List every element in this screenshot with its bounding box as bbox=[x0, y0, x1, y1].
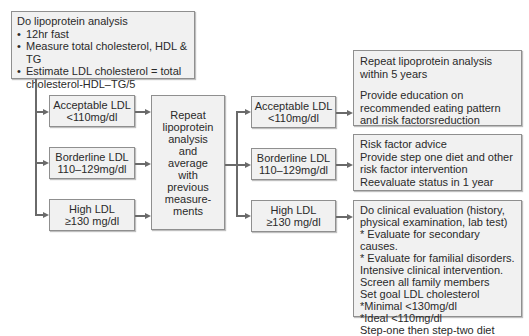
left-high-range: ≥130 mg/dl bbox=[65, 215, 119, 228]
connector-to-second-acceptable bbox=[236, 111, 245, 113]
left-borderline-ldl-box: Borderline LDL 110–129mg/dl bbox=[49, 147, 135, 179]
high-line: Do clinical evaluation (history, physica… bbox=[360, 204, 515, 228]
repeat-line: and bbox=[179, 145, 197, 157]
second-borderline-ldl-box: Borderline LDL 110–129mg/dl bbox=[251, 148, 336, 180]
high-line: *Ideal <110mg/dl bbox=[360, 312, 515, 324]
connector-to-left-high bbox=[35, 214, 43, 216]
second-high-ldl-box: High LDL ≥130 mg/dl bbox=[251, 200, 336, 232]
connector-to-left-borderline bbox=[35, 162, 43, 164]
second-acceptable-ldl-box: Acceptable LDL <110mg/dl bbox=[251, 96, 336, 128]
lipoprotein-analysis-box: Do lipoprotein analysis 12hr fast Measur… bbox=[11, 11, 195, 79]
repeat-line: average bbox=[168, 157, 208, 169]
high-action-box: Do clinical evaluation (history, physica… bbox=[353, 200, 522, 317]
repeat-line: with bbox=[178, 169, 198, 181]
repeat-line: measure- bbox=[165, 193, 211, 205]
lipoprotein-analysis-steps: 12hr fast Measure total cholesterol, HDL… bbox=[17, 28, 189, 91]
high-line: Screen all family members bbox=[360, 276, 515, 288]
repeat-line: ments bbox=[173, 205, 203, 217]
second-high-label: High LDL bbox=[271, 204, 317, 217]
connector-to-second-high bbox=[236, 215, 245, 217]
high-line: Step-one then step-two diet bbox=[360, 324, 515, 336]
repeat-line: Repeat bbox=[170, 109, 205, 121]
repeat-line: previous bbox=[167, 181, 209, 193]
repeat-analysis-box: Repeat lipoprotein analysis and average … bbox=[151, 95, 225, 230]
borderline-action-box: Risk factor advice Provide step one diet… bbox=[353, 134, 522, 191]
repeat-line: analysis bbox=[168, 133, 208, 145]
connector-to-second-borderline bbox=[236, 164, 245, 166]
left-high-label: High LDL bbox=[69, 203, 115, 216]
second-borderline-range: 110–129mg/dl bbox=[259, 164, 328, 177]
borderline-line: Reevaluate status in 1 year bbox=[360, 176, 515, 189]
high-line: Set goal LDL cholesterol bbox=[360, 288, 515, 300]
second-borderline-label: Borderline LDL bbox=[257, 152, 330, 165]
second-high-range: ≥130 mg/dl bbox=[266, 216, 320, 229]
acceptable-education-text: Provide education on recommended eating … bbox=[360, 89, 515, 127]
connector-trunk-left bbox=[35, 79, 37, 215]
second-acceptable-range: <110mg/dl bbox=[268, 112, 319, 125]
high-line: *Minimal <130mg/dl bbox=[360, 300, 515, 312]
left-borderline-range: 110–129mg/dl bbox=[58, 163, 127, 176]
borderline-line: Risk factor advice bbox=[360, 138, 515, 151]
connector-left-high-to-middle bbox=[135, 215, 145, 217]
high-line: * Evaluate for secondary causes. bbox=[360, 228, 515, 252]
lipoprotein-analysis-title: Do lipoprotein analysis bbox=[17, 15, 189, 28]
high-line: Intensive clinical intervention. bbox=[360, 264, 515, 276]
left-acceptable-range: <110mg/dl bbox=[67, 111, 118, 124]
connector-to-left-acceptable bbox=[35, 111, 43, 113]
connector-second-borderline-to-right bbox=[336, 164, 347, 166]
acceptable-action-box: Repeat lipoprotein analysis within 5 yea… bbox=[353, 50, 522, 126]
repeat-line: lipoprotein bbox=[163, 121, 214, 133]
left-high-ldl-box: High LDL ≥130 mg/dl bbox=[49, 199, 135, 231]
acceptable-repeat-text: Repeat lipoprotein analysis within 5 yea… bbox=[360, 55, 515, 80]
step-measure: Measure total cholesterol, HDL & TG bbox=[17, 40, 189, 65]
step-fast: 12hr fast bbox=[17, 28, 189, 41]
left-acceptable-ldl-box: Acceptable LDL <110mg/dl bbox=[49, 95, 135, 127]
connector-left-borderline-to-middle bbox=[135, 163, 145, 165]
connector-left-acceptable-to-middle bbox=[135, 111, 145, 113]
left-borderline-label: Borderline LDL bbox=[55, 151, 128, 164]
borderline-line: Provide step one diet and other risk fac… bbox=[360, 151, 515, 176]
left-acceptable-label: Acceptable LDL bbox=[53, 99, 131, 112]
high-line: * Evaluate for familial disorders. bbox=[360, 252, 515, 264]
connector-second-high-to-right bbox=[336, 216, 347, 218]
step-estimate: Estimate LDL cholesterol = total cholest… bbox=[17, 65, 189, 90]
second-acceptable-label: Acceptable LDL bbox=[255, 100, 333, 113]
connector-second-acceptable-to-right bbox=[336, 112, 347, 114]
